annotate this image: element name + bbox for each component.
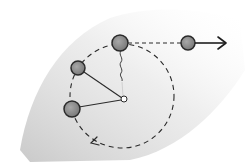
pivot-point — [121, 96, 127, 102]
ball-flying — [181, 36, 195, 50]
pencil-shading — [20, 10, 245, 162]
circular-motion-diagram — [0, 0, 251, 167]
ball-lower-left — [64, 101, 80, 117]
diagram-canvas — [0, 0, 251, 167]
ball-top-released — [112, 35, 128, 51]
ball-upper-left — [71, 61, 85, 75]
